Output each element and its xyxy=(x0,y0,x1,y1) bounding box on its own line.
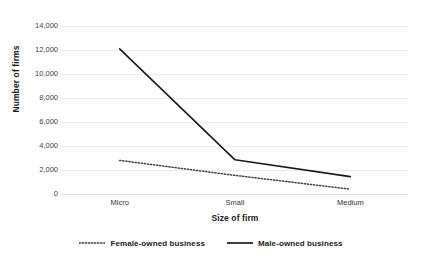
y-axis-tick-label: 14,000 xyxy=(18,22,58,30)
x-axis-tick-labels: MicroSmallMedium xyxy=(62,198,408,212)
solid-line-swatch xyxy=(227,239,253,247)
series-female-owned-business xyxy=(120,160,351,189)
gridline xyxy=(62,194,408,195)
y-axis-tick-label: 4,000 xyxy=(18,142,58,150)
y-axis-tick-label: 12,000 xyxy=(18,46,58,54)
dotted-line-swatch xyxy=(79,239,105,247)
y-axis-tick-label: 8,000 xyxy=(18,94,58,102)
y-axis-tick-label: 2,000 xyxy=(18,166,58,174)
y-axis-tick-label: 6,000 xyxy=(18,118,58,126)
legend-label-female-owned-business: Female-owned business xyxy=(110,239,205,248)
legend-item-female-owned-business[interactable]: Female-owned business xyxy=(79,239,205,248)
series-male-owned-business xyxy=(120,49,351,177)
y-axis-tick-label: 10,000 xyxy=(18,70,58,78)
line-chart: Number of firms 02,0004,0006,0008,00010,… xyxy=(0,0,422,259)
chart-legend: Female-owned business Male-owned busines… xyxy=(0,234,422,252)
x-axis-tick-label: Medium xyxy=(337,198,364,208)
y-axis-tick-label: 0 xyxy=(18,190,58,198)
legend-label-male-owned-business: Male-owned business xyxy=(258,239,343,248)
series-layer xyxy=(62,26,408,194)
legend-item-male-owned-business[interactable]: Male-owned business xyxy=(227,239,343,248)
x-axis-title: Size of firm xyxy=(62,213,408,223)
y-axis-tick-labels: 02,0004,0006,0008,00010,00012,00014,000 xyxy=(18,20,58,200)
plot-area xyxy=(62,26,408,194)
x-axis-tick-label: Small xyxy=(226,198,245,208)
x-axis-tick-label: Micro xyxy=(110,198,128,208)
